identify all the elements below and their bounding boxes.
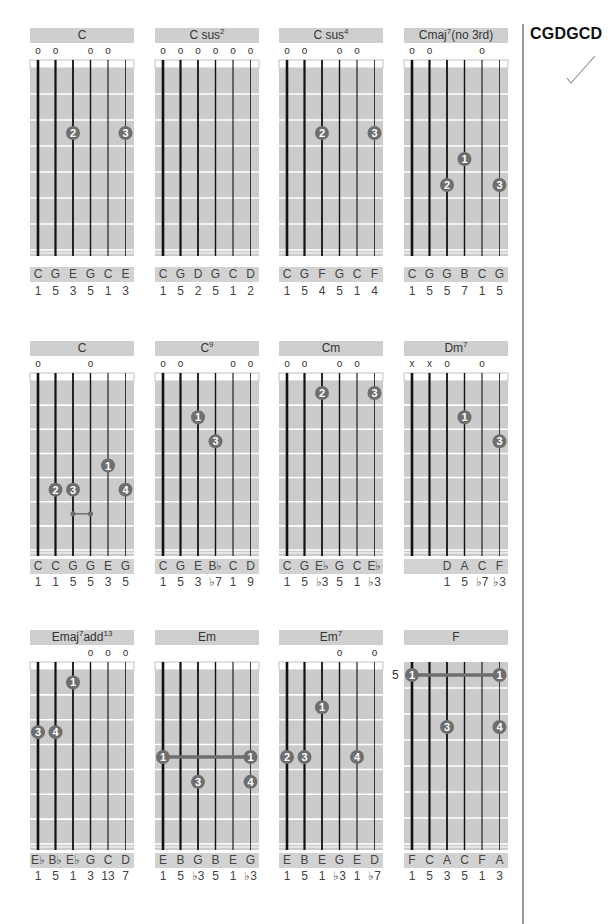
note-name: E [189, 559, 207, 574]
svg-text:1: 1 [105, 460, 111, 472]
interval-degree: 5 [296, 575, 314, 589]
note-name: C [29, 267, 47, 282]
interval-degree: 1 [403, 284, 421, 298]
finger-dot: 1 [191, 410, 205, 424]
fret-position-label: 5 [392, 668, 399, 682]
open-string-marker: o [160, 45, 166, 56]
interval-degree: 3 [438, 869, 456, 883]
open-string-marker: o [354, 45, 360, 56]
interval-degree: 5 [296, 284, 314, 298]
note-name: C [29, 559, 47, 574]
open-string-marker: o [302, 358, 308, 369]
interval-degree: 5 [47, 869, 65, 883]
note-name: G [82, 853, 100, 868]
note-name: C [473, 559, 491, 574]
fretboard: 1134 [404, 644, 508, 854]
note-name: G [172, 559, 190, 574]
fretboard: oooo23 [30, 42, 134, 260]
finger-dot: 4 [49, 725, 63, 739]
svg-text:3: 3 [371, 127, 377, 139]
finger-dot: 3 [493, 178, 507, 192]
open-string-marker: o [213, 45, 219, 56]
interval-degree: 5 [82, 284, 100, 298]
svg-text:4: 4 [354, 751, 361, 763]
finger-dot: 3 [440, 720, 454, 734]
interval-degree: 5 [456, 869, 474, 883]
interval-degree: 1 [154, 575, 172, 589]
interval-degree: ♭3 [189, 869, 207, 883]
finger-dot: 2 [315, 386, 329, 400]
chord-suffix: (no 3rd) [451, 28, 493, 42]
interval-degree: 3 [189, 575, 207, 589]
open-string-marker: o [284, 45, 290, 56]
interval-degree: 5 [438, 284, 456, 298]
interval-degree: 5 [172, 284, 190, 298]
svg-text:2: 2 [284, 751, 290, 763]
note-name: E [348, 853, 366, 868]
note-name: E [224, 853, 242, 868]
open-string-marker: o [444, 358, 450, 369]
note-name: C [99, 853, 117, 868]
open-string-marker: o [105, 647, 111, 658]
interval-degree: 5 [47, 284, 65, 298]
note-name: E [154, 853, 172, 868]
open-string-marker: o [337, 358, 343, 369]
interval-degree: 1 [278, 869, 296, 883]
svg-text:3: 3 [212, 435, 218, 447]
interval-degree: 1 [348, 284, 366, 298]
chord-title: Emaj7add13 [30, 630, 134, 645]
interval-degree: 1 [348, 869, 366, 883]
note-name: G [189, 853, 207, 868]
fretboard: ooo123 [404, 42, 508, 260]
interval-degree: 7 [456, 284, 474, 298]
chord-superscript: 2 [220, 27, 224, 36]
chord-name: Em [198, 630, 216, 644]
svg-text:4: 4 [247, 776, 254, 788]
finger-dot: 3 [191, 775, 205, 789]
note-name: C [154, 559, 172, 574]
finger-dot: 1 [66, 675, 80, 689]
note-name: A [491, 853, 509, 868]
interval-degree: ♭7 [473, 575, 491, 589]
note-name: A [438, 853, 456, 868]
note-name: B [296, 853, 314, 868]
open-string-marker: o [230, 45, 236, 56]
note-name: G [491, 267, 509, 282]
finger-dot: 4 [493, 720, 507, 734]
interval-degree: ♭3 [242, 869, 260, 883]
interval-degree: 5 [64, 575, 82, 589]
open-string-marker: o [160, 358, 166, 369]
chord-name: C sus [189, 28, 220, 42]
finger-dot: 3 [209, 434, 223, 448]
note-name: G [438, 267, 456, 282]
interval-degree: 1 [47, 575, 65, 589]
note-name: G [296, 267, 314, 282]
note-name: F [313, 267, 331, 282]
note-name: C [348, 267, 366, 282]
interval-degree: 1 [29, 869, 47, 883]
chord-title: C sus2 [155, 28, 259, 43]
open-string-marker: o [427, 45, 433, 56]
svg-text:3: 3 [122, 127, 128, 139]
finger-dot: 4 [350, 750, 364, 764]
chord-superscript: 4 [344, 27, 348, 36]
interval-degree: 1 [438, 575, 456, 589]
note-name: F [491, 559, 509, 574]
fretboard: 1134 [155, 644, 259, 854]
note-name: E♭ [64, 853, 82, 868]
note-name: C [456, 853, 474, 868]
interval-degree: ♭3 [331, 869, 349, 883]
chord-title: C [30, 341, 134, 356]
interval-degree: 4 [366, 284, 384, 298]
interval-degree: 5 [456, 575, 474, 589]
interval-degree: 3 [99, 575, 117, 589]
open-string-marker: o [479, 358, 485, 369]
note-name: C [473, 267, 491, 282]
open-string-marker: o [178, 358, 184, 369]
chord-name: Em [320, 630, 338, 644]
chord-name: C [78, 341, 87, 355]
svg-text:2: 2 [444, 179, 450, 191]
interval-degree: 1 [403, 869, 421, 883]
interval-degree: 3 [491, 869, 509, 883]
note-name: C [154, 267, 172, 282]
